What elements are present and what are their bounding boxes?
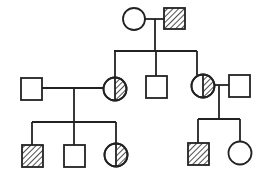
pedigree-chart — [0, 0, 264, 186]
male-unaffected-II-2 — [146, 76, 167, 98]
female-unaffected-III-5 — [229, 142, 252, 165]
female-carrier-II-3 — [192, 75, 215, 98]
male-unaffected-III-2 — [64, 145, 85, 167]
male-unaffected-spouse-right — [229, 75, 250, 97]
female-unaffected-I-1 — [123, 8, 145, 30]
female-carrier-III-3 — [105, 144, 128, 167]
generation-3 — [22, 142, 252, 168]
male-affected-I-2 — [164, 8, 185, 29]
male-unaffected-spouse-left — [21, 78, 42, 100]
female-carrier-II-1 — [104, 78, 127, 101]
male-affected-III-1 — [22, 145, 43, 167]
male-affected-III-4 — [188, 143, 209, 165]
